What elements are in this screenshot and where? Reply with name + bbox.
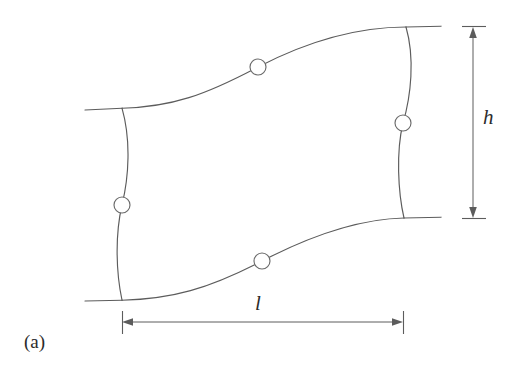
bottom-left-stub <box>85 300 122 301</box>
right-node-circle <box>395 115 411 131</box>
panel-label: (a) <box>24 332 45 351</box>
l-dimension-arrow-right <box>392 318 403 326</box>
bottom-node-circle <box>254 253 270 269</box>
length-dimension-label: l <box>255 293 261 314</box>
h-dimension-arrow-up <box>469 27 477 38</box>
top-left-stub <box>85 108 122 110</box>
bottom-right-stub <box>404 217 441 218</box>
top-right-stub <box>406 26 441 27</box>
l-dimension-arrow-left <box>122 318 133 326</box>
h-dimension-arrow-down <box>469 207 477 218</box>
left-node-circle <box>114 197 130 213</box>
figure-panel-a: h l (a) <box>0 0 518 365</box>
height-dimension-label: h <box>483 107 494 128</box>
top-node-circle <box>250 59 266 75</box>
